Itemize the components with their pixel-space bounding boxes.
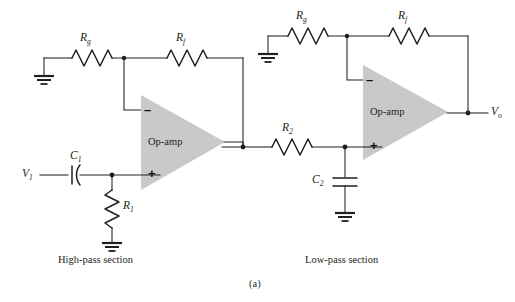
hp-resistor-rg-label: Rg <box>80 32 91 44</box>
lp-resistor-r2-symbol <box>272 139 312 155</box>
hp-ground-gnd-symbol <box>34 58 54 84</box>
lp-ground-gnd-symbol <box>258 36 278 62</box>
lp-opamp-label: Op-amp <box>370 107 404 118</box>
hp-resistor-rg-symbol <box>72 50 112 66</box>
hp-resistor-r1-label: R1 <box>123 200 134 212</box>
lp-capacitor-c2-symbol <box>333 178 357 186</box>
lp-resistor-rg-symbol <box>288 28 328 44</box>
hp-inverting-input-sign: – <box>144 103 151 116</box>
lp-resistor-rg-label: Rg <box>296 10 307 22</box>
hp-capacitor-c1-label: C1 <box>70 150 81 162</box>
lp-c2-ground-symbol <box>335 213 355 221</box>
hp-r1-ground-symbol <box>102 243 122 251</box>
lp-capacitor-c2-label: C2 <box>312 174 323 186</box>
lp-inverting-input-sign: – <box>366 73 373 86</box>
hp-opamp-label: Op-amp <box>148 137 182 148</box>
lp-resistor-r2-label: R2 <box>282 122 293 134</box>
hp-resistor-rf-symbol <box>167 50 207 66</box>
lp-wire-node-to-minus-input <box>347 36 365 80</box>
lp-resistor-rf-label: Rf <box>398 10 407 22</box>
low-pass-section-caption: Low-pass section <box>305 255 378 266</box>
hp-capacitor-c1-symbol <box>72 165 80 185</box>
hp-wire-node-to-minus-input <box>124 58 142 110</box>
high-pass-section-caption: High-pass section <box>58 255 133 266</box>
lp-resistor-rf-symbol <box>389 28 429 44</box>
lp-noninverting-input-sign: + <box>370 139 378 152</box>
hp-resistor-r1-symbol <box>105 190 119 228</box>
circuit-diagram-figure: Rg Rf C1 R1 V1 Op-amp – + High-pass sect… <box>0 0 515 302</box>
figure-label: (a) <box>249 279 261 290</box>
hp-resistor-rf-label: Rf <box>176 32 185 44</box>
lp-output-vo-label: Vo <box>491 106 502 118</box>
hp-input-v1-label: V1 <box>22 168 33 180</box>
hp-wire-opamp-out <box>224 142 243 147</box>
hp-noninverting-input-sign: + <box>148 167 156 180</box>
